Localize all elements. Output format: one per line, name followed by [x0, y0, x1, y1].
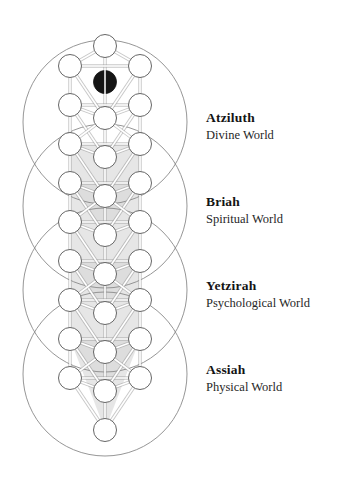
world-subtitle-yetzirah: Psychological World — [206, 295, 346, 311]
world-subtitle-atziluth: Divine World — [206, 127, 346, 143]
world-labels: Atziluth Divine World Briah Spiritual Wo… — [0, 0, 348, 484]
world-label-yetzirah: Yetzirah Psychological World — [206, 278, 346, 311]
world-subtitle-assiah: Physical World — [206, 379, 346, 395]
world-label-atziluth: Atziluth Divine World — [206, 110, 346, 143]
world-name-atziluth: Atziluth — [206, 110, 346, 126]
world-subtitle-briah: Spiritual World — [206, 211, 346, 227]
world-label-assiah: Assiah Physical World — [206, 362, 346, 395]
world-name-briah: Briah — [206, 194, 346, 210]
diagram-canvas: Atziluth Divine World Briah Spiritual Wo… — [0, 0, 348, 484]
world-label-briah: Briah Spiritual World — [206, 194, 346, 227]
world-name-yetzirah: Yetzirah — [206, 278, 346, 294]
world-name-assiah: Assiah — [206, 362, 346, 378]
